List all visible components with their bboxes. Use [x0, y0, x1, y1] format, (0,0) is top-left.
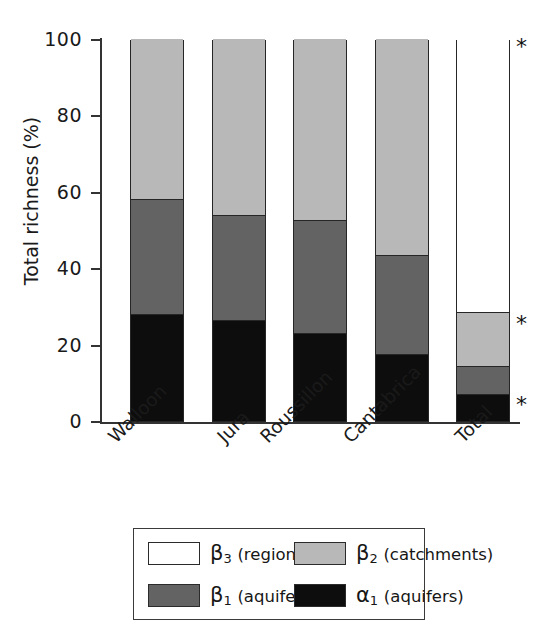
- legend-swatch-beta2: [294, 542, 346, 565]
- segment-beta2-roussillon: [294, 39, 346, 220]
- y-tick-80: [91, 115, 100, 117]
- y-tick-100: [91, 39, 100, 41]
- legend-greek-beta3: β: [210, 541, 223, 565]
- bar-roussillon: [293, 40, 347, 422]
- x-axis-line: [100, 422, 520, 424]
- legend-greek-beta1: β: [210, 583, 223, 607]
- segment-beta1-cantabrica: [376, 255, 428, 354]
- y-tick-label-80: 80: [38, 104, 82, 126]
- legend-greek-beta2: β: [356, 541, 369, 565]
- y-tick-60: [91, 192, 100, 194]
- bar-total: [456, 40, 510, 422]
- legend-sub-alpha1: 1: [370, 593, 378, 608]
- stacked-bar-chart: Total richness (%) 100 80 60 40 20 0: [0, 0, 551, 643]
- asterisk-beta2: *: [516, 313, 527, 335]
- legend-item-beta3: β3 (regions): [148, 541, 311, 566]
- legend-sub-beta2: 2: [369, 551, 377, 566]
- segment-alpha1-jura: [213, 320, 265, 421]
- y-tick-label-100: 100: [38, 28, 82, 50]
- y-tick-label-20: 20: [38, 334, 82, 356]
- y-tick-label-60: 60: [38, 181, 82, 203]
- segment-beta3-total: [457, 39, 509, 312]
- plot-area: [100, 40, 520, 422]
- segment-beta2-total: [457, 312, 509, 366]
- segment-beta2-cantabrica: [376, 39, 428, 255]
- segment-beta1-walloon: [131, 199, 183, 314]
- legend-item-beta1: β1 (aquifers): [148, 583, 317, 608]
- legend-rest-beta2: (catchments): [383, 545, 493, 564]
- segment-beta1-total: [457, 366, 509, 395]
- segment-beta2-walloon: [131, 39, 183, 199]
- y-tick-label-0: 0: [38, 410, 82, 432]
- legend-sub-beta1: 1: [223, 593, 231, 608]
- y-tick-20: [91, 345, 100, 347]
- y-tick-label-40: 40: [38, 257, 82, 279]
- bar-jura: [212, 40, 266, 422]
- segment-beta2-jura: [213, 39, 265, 215]
- legend-sub-beta3: 3: [223, 551, 231, 566]
- y-tick-0: [91, 421, 100, 423]
- legend-rest-alpha1: (aquifers): [384, 587, 464, 606]
- bar-walloon: [130, 40, 184, 422]
- legend: β3 (regions) β2 (catchments) β1 (aquifer…: [133, 528, 425, 620]
- asterisk-alpha1: *: [516, 394, 527, 416]
- segment-beta1-jura: [213, 215, 265, 320]
- legend-swatch-beta1: [148, 584, 200, 607]
- legend-swatch-alpha1: [294, 584, 346, 607]
- bar-cantabrica: [375, 40, 429, 422]
- legend-label-beta2: β2 (catchments): [356, 541, 493, 566]
- y-tick-40: [91, 268, 100, 270]
- legend-item-alpha1: α1 (aquifers): [294, 583, 464, 608]
- asterisk-beta3: *: [516, 36, 527, 58]
- legend-swatch-beta3: [148, 542, 200, 565]
- legend-label-alpha1: α1 (aquifers): [356, 583, 464, 608]
- legend-item-beta2: β2 (catchments): [294, 541, 493, 566]
- legend-greek-alpha1: α: [356, 583, 370, 607]
- segment-beta1-roussillon: [294, 220, 346, 333]
